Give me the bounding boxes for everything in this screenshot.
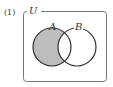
set-a-label: A — [49, 22, 56, 32]
universal-set-label: U — [29, 6, 37, 16]
set-b-label: B — [74, 22, 83, 32]
problem-number: (1) — [4, 9, 15, 17]
venn-diagram — [0, 0, 113, 87]
